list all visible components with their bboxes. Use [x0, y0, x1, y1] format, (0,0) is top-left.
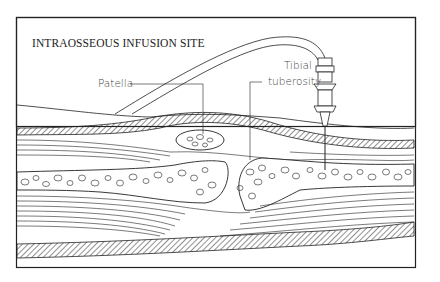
label-tibial: Tibial — [284, 59, 312, 71]
label-patella: Patella — [98, 77, 133, 89]
patella — [176, 130, 224, 150]
figure-frame — [17, 18, 416, 127]
label-tuberosity: tuberosity — [268, 75, 321, 87]
figure-title: INTRAOSSEOUS INFUSION SITE — [32, 37, 205, 49]
